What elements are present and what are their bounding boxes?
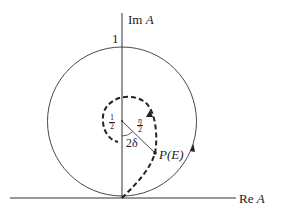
radius-fraction-denominator: 2 — [137, 126, 143, 134]
real-axis-label-prefix: Re — [239, 191, 253, 206]
real-axis-label-var: A — [257, 191, 265, 206]
imaginary-axis-label-prefix: Im — [128, 12, 142, 27]
inner-center-fraction-denominator: 2 — [109, 123, 115, 131]
imaginary-axis-label: Im A — [128, 13, 154, 26]
point-p-marker — [153, 151, 157, 155]
unit-circle-top-label: 1 — [112, 32, 119, 45]
point-p-label: P(E) — [159, 148, 184, 161]
argand-diagram-canvas — [0, 0, 282, 211]
real-axis-label: Re A — [239, 192, 265, 205]
imaginary-axis-label-var: A — [146, 12, 154, 27]
inner-center-fraction-label: 1 2 — [109, 114, 115, 131]
radius-fraction-label: η 2 — [137, 117, 143, 134]
angle-label: 2δ — [126, 137, 138, 149]
inner-center-marker — [121, 120, 123, 122]
